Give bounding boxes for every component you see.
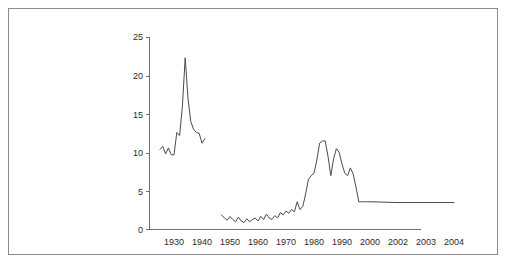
y-tick-label-0: 0: [138, 225, 143, 235]
x-tick-label-2000: 2000: [360, 237, 380, 247]
y-axis: 25 20 15 10 5 0: [133, 32, 150, 235]
x-tick-label-2004: 2004: [444, 237, 464, 247]
series-group: [160, 58, 454, 223]
y-tick-label-25: 25: [133, 32, 143, 42]
line-chart: 25 20 15 10 5 0 1930 1940 1950 1960 1970…: [9, 9, 497, 254]
x-tick-label-1970: 1970: [276, 237, 296, 247]
x-tick-label-1960: 1960: [248, 237, 268, 247]
figure-border: 25 20 15 10 5 0 1930 1940 1950 1960 1970…: [8, 8, 498, 255]
y-tick-label-10: 10: [133, 148, 143, 158]
x-tick-label-1940: 1940: [192, 237, 212, 247]
y-tick-label-20: 20: [133, 71, 143, 81]
y-tick-label-15: 15: [133, 110, 143, 120]
x-tick-label-1950: 1950: [220, 237, 240, 247]
series-line-late-segment: [222, 141, 454, 223]
y-tick-label-5: 5: [138, 187, 143, 197]
x-tick-label-1930: 1930: [164, 237, 184, 247]
x-tick-label-1990: 1990: [332, 237, 352, 247]
x-tick-label-1980: 1980: [304, 237, 324, 247]
x-axis: 1930 1940 1950 1960 1970 1980 1990 2000 …: [150, 230, 465, 248]
series-line-early-segment: [160, 58, 205, 155]
x-tick-label-2002: 2002: [388, 237, 408, 247]
x-tick-label-2003: 2003: [416, 237, 436, 247]
